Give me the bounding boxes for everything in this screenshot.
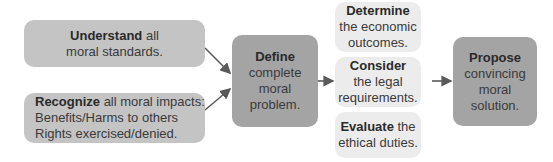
node-recognize-line2: Benefits/Harms to others — [35, 110, 205, 126]
node-understand-bold: Understand — [70, 28, 142, 43]
node-understand-line2: moral standards. — [66, 44, 163, 60]
node-evaluate-line2: ethical duties. — [338, 135, 418, 151]
node-evaluate-bold: Evaluate — [340, 119, 393, 134]
node-define-line4: problem. — [250, 97, 301, 113]
node-determine-line2: the economic — [339, 19, 416, 35]
node-determine-bold: Determine — [346, 3, 410, 19]
node-recognize-line3: Rights exercised/denied. — [35, 126, 205, 142]
node-propose-line3: moral — [479, 82, 512, 98]
node-define-line2: complete — [249, 65, 302, 81]
node-propose: Propose convincing moral solution. — [453, 37, 537, 126]
node-define-bold: Define — [255, 49, 295, 65]
node-determine: Determine the economic outcomes. — [335, 2, 421, 52]
node-consider-bold: Consider — [350, 58, 406, 74]
node-consider-line3: requirements. — [338, 90, 417, 106]
node-define-line3: moral — [259, 81, 292, 97]
node-recognize-bold: Recognize — [35, 94, 100, 109]
node-propose-line2: convincing — [464, 66, 525, 82]
node-evaluate: Evaluate the ethical duties. — [335, 112, 421, 158]
node-define: Define complete moral problem. — [232, 35, 318, 127]
node-recognize: Recognize all moral impacts: Benefits/Ha… — [24, 93, 205, 143]
node-understand-rest: all — [142, 28, 159, 43]
arrow-recognize-to-define — [205, 89, 230, 110]
node-recognize-rest: all moral impacts: — [100, 94, 205, 109]
node-consider-line2: the legal — [353, 74, 402, 90]
node-understand: Understand all moral standards. — [24, 20, 205, 67]
node-evaluate-rest: the — [394, 119, 416, 134]
node-consider: Consider the legal requirements. — [335, 57, 421, 107]
arrow-understand-to-define — [205, 48, 230, 73]
node-determine-line3: outcomes. — [348, 35, 408, 51]
node-propose-line4: solution. — [471, 98, 519, 114]
node-propose-bold: Propose — [469, 50, 521, 66]
